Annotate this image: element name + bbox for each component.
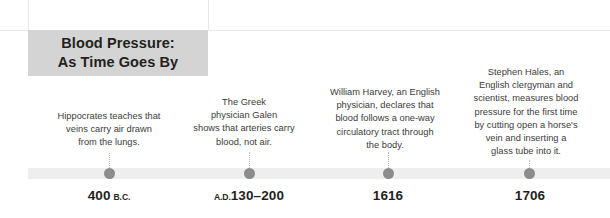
- event-date-year: 1706: [515, 188, 545, 203]
- title-box: Blood Pressure: As Time Goes By: [28, 30, 208, 76]
- timeline-event[interactable]: Stephen Hales, an English clergyman and …: [442, 66, 610, 158]
- event-date-label: 1706: [450, 186, 610, 204]
- event-dot[interactable]: [524, 168, 535, 179]
- event-date-year: 1616: [373, 188, 403, 203]
- event-date-label: A.D.130–200: [169, 186, 329, 204]
- page-title: Blood Pressure: As Time Goes By: [58, 34, 179, 72]
- event-connector-line: [109, 153, 110, 168]
- event-connector-line: [529, 160, 530, 168]
- event-connector-line: [249, 152, 250, 168]
- event-connector-line: [388, 152, 389, 168]
- event-date-era: B.C.: [114, 192, 131, 202]
- event-caption: Stephen Hales, an English clergyman and …: [442, 66, 610, 158]
- event-dot[interactable]: [244, 168, 255, 179]
- event-dot[interactable]: [104, 168, 115, 179]
- timeline-infographic: Blood Pressure: As Time Goes By Hippocra…: [0, 0, 610, 218]
- event-date-label: 400B.C.: [29, 186, 189, 204]
- timeline-bar: [28, 168, 610, 179]
- event-date-label: 1616: [308, 186, 468, 204]
- event-dot[interactable]: [383, 168, 394, 179]
- event-date-year: 400: [88, 188, 111, 203]
- event-date-era: A.D.: [214, 192, 231, 202]
- guide-line-vertical-left: [28, 0, 29, 30]
- guide-line-vertical-right: [208, 0, 209, 30]
- event-date-year: 130–200: [231, 188, 284, 203]
